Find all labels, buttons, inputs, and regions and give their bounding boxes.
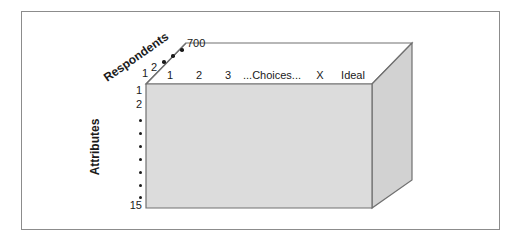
attributes-ellipsis-dot-5 [139, 171, 142, 174]
choices-tick-3: 3 [225, 70, 231, 81]
attributes-ellipsis-dot-2 [139, 132, 142, 135]
respondents-ellipsis-dot-3 [180, 48, 184, 52]
respondents-tick-1: 1 [142, 68, 148, 79]
cube-front-face [146, 84, 372, 208]
choices-tick-ideal: Ideal [341, 70, 365, 81]
data-cube-graphic [0, 0, 519, 245]
attributes-ellipsis-dot-1 [139, 119, 142, 122]
attributes-tick-2: 2 [128, 99, 142, 110]
respondents-tick-700: 700 [187, 38, 205, 49]
choices-tick-1: 1 [167, 70, 173, 81]
attributes-ellipsis-dot-4 [139, 158, 142, 161]
choices-axis-label: ...Choices... [243, 70, 301, 81]
attributes-tick-15: 15 [124, 200, 142, 211]
attributes-tick-1: 1 [128, 85, 142, 96]
figure-root: Respondents 1 2 700 1 2 3 ...Choices... … [0, 0, 519, 245]
choices-tick-x: X [316, 70, 323, 81]
attributes-ellipsis-dot-3 [139, 145, 142, 148]
respondents-ellipsis-dot-2 [171, 54, 175, 58]
attributes-ellipsis-dot-6 [139, 184, 142, 187]
respondents-ellipsis-dot-1 [162, 60, 166, 64]
axis-title-attributes: Attributes [88, 117, 102, 177]
choices-tick-2: 2 [196, 70, 202, 81]
respondents-tick-2: 2 [151, 62, 157, 73]
